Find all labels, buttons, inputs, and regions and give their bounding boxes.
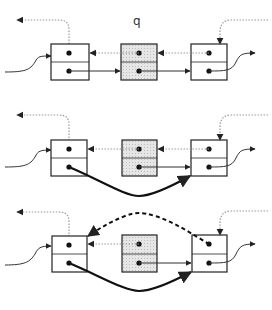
- node-left: [51, 140, 87, 176]
- node-right: [191, 44, 227, 80]
- pointer-label-q: q: [133, 14, 141, 28]
- node-middle-q: [122, 235, 157, 272]
- stage-2: [5, 115, 268, 196]
- stage-1: q: [5, 14, 268, 80]
- node-middle-q: [122, 140, 157, 176]
- node-right: [192, 235, 227, 272]
- node-left: [51, 44, 89, 80]
- stage-3: [5, 211, 268, 291]
- node-right: [191, 140, 227, 176]
- incoming-next-arrow: [5, 56, 51, 72]
- linked-list-diagram: q: [0, 0, 272, 310]
- node-left: [52, 236, 87, 272]
- node-middle-q: [121, 44, 157, 80]
- prev-pointer-dot: [66, 50, 71, 55]
